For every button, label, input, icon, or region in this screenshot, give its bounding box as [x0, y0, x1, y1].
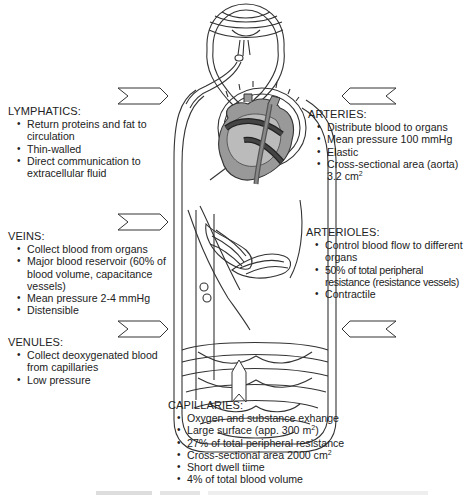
veins-item: Collect blood from organs [27, 243, 178, 255]
arterioles-block: ARTERIOLES: Control blood flow to differ… [306, 226, 464, 300]
lymphatics-item: Return proteins and fat to circulation [27, 118, 178, 142]
capillaries-item: 4% of total blood volume [187, 473, 368, 485]
arrow-veins [118, 214, 168, 230]
arrow-arterioles [342, 321, 396, 337]
veins-block: VEINS: Collect blood from organs Major b… [8, 230, 178, 316]
arterioles-item: Contractile [325, 288, 464, 300]
arrow-venules [118, 321, 168, 337]
caption-placeholder [96, 489, 436, 495]
venules-item: Collect deoxygenated blood from capillar… [27, 349, 178, 373]
arteries-block: ARTERIES: Distribute blood to organs Mea… [308, 108, 464, 182]
veins-item: Major blood reservoir (60% of blood volu… [27, 255, 178, 292]
capillaries-item: Short dwell tiime [187, 461, 368, 473]
arteries-heading: ARTERIES: [308, 108, 464, 120]
heart [210, 94, 294, 184]
veins-heading: VEINS: [8, 230, 178, 242]
arteries-item: Elastic [327, 146, 464, 158]
veins-item: Mean pressure 2-4 mmHg [27, 292, 178, 304]
lymphatics-heading: LYMPHATICS: [8, 105, 178, 117]
head-capillary-bed [207, 4, 284, 61]
arrow-lymphatics [118, 88, 168, 104]
figure-caption-cutoff [96, 488, 436, 495]
venules-item: Low pressure [27, 374, 178, 386]
lymphatics-item: Thin-walled [27, 143, 178, 155]
arterioles-item: Control blood flow to different organs [325, 239, 464, 263]
lymphatics-block: LYMPHATICS: Return proteins and fat to c… [8, 105, 178, 179]
venules-heading: VENULES: [8, 336, 178, 348]
arterioles-heading: ARTERIOLES: [306, 226, 464, 238]
arteries-item: Cross-sectional area (aorta) 3.2 cm2 [327, 158, 464, 182]
capillaries-heading: CAPILLARIES: [168, 399, 368, 411]
arteries-item: Mean pressure 100 mmHg [327, 133, 464, 145]
organ-capillary-bed-1 [206, 224, 252, 269]
veins-item: Distensible [27, 304, 178, 316]
capillaries-item: Cross-sectional area 2000 cm2 [187, 449, 368, 461]
arterioles-item: 50% of total peripheral resistance (resi… [325, 264, 464, 288]
arrow-capillaries [232, 360, 246, 402]
arteries-item: Distribute blood to organs [327, 121, 464, 133]
capillaries-item: 27% of total peripheral resistance [187, 437, 368, 449]
capillaries-item: Large surface (app. 300 m2) [187, 424, 368, 436]
capillaries-item: Oxygen and substance exhange [187, 412, 368, 424]
arrow-arteries [342, 88, 396, 104]
venules-block: VENULES: Collect deoxygenated blood from… [8, 336, 178, 386]
lymphatics-item: Direct communication to extracellular fl… [27, 155, 178, 179]
capillaries-block: CAPILLARIES: Oxygen and substance exhang… [168, 399, 368, 485]
